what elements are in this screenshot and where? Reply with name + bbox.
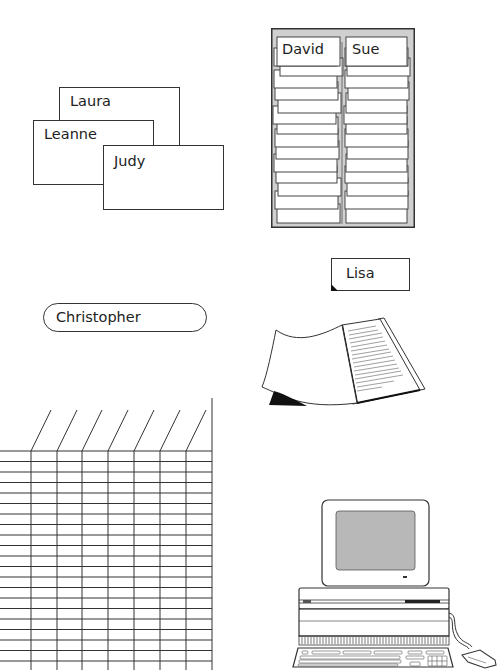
computer-icon[interactable]	[290, 495, 502, 670]
open-document-icon[interactable]	[262, 315, 432, 410]
spreadsheet-grid[interactable]	[0, 398, 215, 670]
card-file[interactable]: David Sue	[271, 28, 415, 228]
pill-christopher-label: Christopher	[56, 309, 141, 325]
card-file-label-david: David	[282, 41, 324, 57]
card-judy[interactable]: Judy	[103, 145, 224, 210]
card-file-drawing	[271, 28, 415, 228]
pill-christopher[interactable]: Christopher	[43, 303, 207, 332]
monitor-screen	[336, 511, 415, 570]
tab-lisa[interactable]: Lisa	[331, 258, 410, 291]
card-judy-label: Judy	[114, 153, 145, 169]
card-laura-label: Laura	[70, 93, 111, 109]
card-file-label-sue: Sue	[352, 41, 379, 57]
mouse	[462, 650, 496, 668]
card-leanne-label: Leanne	[44, 126, 97, 142]
system-unit	[299, 588, 449, 609]
tab-lisa-label: Lisa	[346, 265, 375, 281]
folded-corner-icon	[331, 284, 338, 291]
